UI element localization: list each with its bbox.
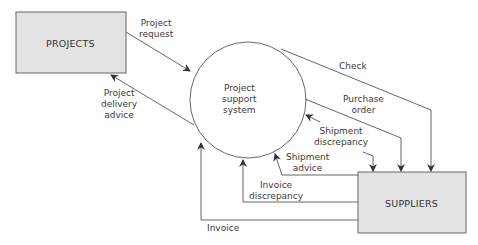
label-shipment-discrepancy: Shipment discrepancy (314, 126, 368, 148)
label-line: Project (139, 18, 173, 29)
label-line: discrepancy (249, 191, 303, 202)
label-project-request: Project request (139, 18, 173, 40)
label-line: discrepancy (314, 137, 368, 148)
label-line: Invoice (207, 223, 239, 234)
label-line: advice (286, 163, 329, 174)
suppliers-label: SUPPLIERS (385, 198, 438, 209)
label-line: Purchase (343, 94, 384, 105)
process-label-line: system (222, 105, 257, 116)
process-label: Project support system (222, 83, 257, 116)
label-line: Check (339, 61, 367, 72)
projects-label: PROJECTS (46, 38, 95, 49)
flow-shipment-discrepancy-to-circle (306, 115, 320, 122)
process-label-line: support (222, 94, 257, 105)
label-invoice-discrepancy: Invoice discrepancy (249, 180, 303, 202)
label-line: advice (101, 110, 137, 121)
label-line: Project (101, 88, 137, 99)
label-check: Check (339, 61, 367, 72)
label-line: order (343, 105, 384, 116)
label-shipment-advice: Shipment advice (286, 152, 329, 174)
flow-shipment-discrepancy-to-suppliers (363, 152, 373, 171)
label-line: Invoice (249, 180, 303, 191)
label-line: request (139, 29, 173, 40)
label-line: Shipment (286, 152, 329, 163)
process-label-line: Project (222, 83, 257, 94)
label-line: delivery (101, 99, 137, 110)
label-line: Shipment (314, 126, 368, 137)
label-purchase-order: Purchase order (343, 94, 384, 116)
label-invoice: Invoice (207, 223, 239, 234)
label-project-delivery-advice: Project delivery advice (101, 88, 137, 121)
